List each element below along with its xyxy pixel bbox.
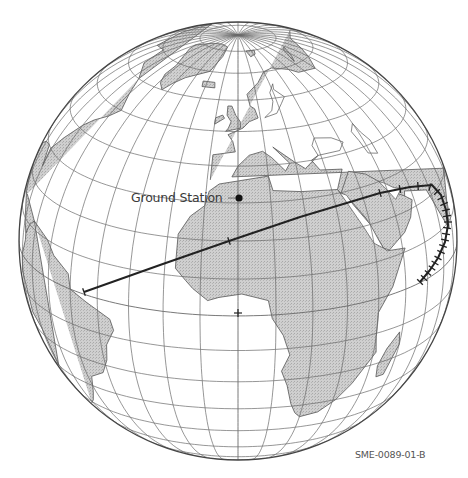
track-tick [443, 227, 451, 228]
landmass-s_america [22, 221, 113, 403]
meridian-line [238, 35, 432, 139]
figure-id-label: SME-0089-01-B [355, 449, 425, 460]
sea-black_sea [312, 138, 343, 156]
landmass-iceland [202, 81, 215, 88]
track-tick [442, 233, 450, 234]
ground-station-label: Ground Station [131, 190, 223, 205]
track-tick [418, 182, 419, 190]
sea-baltic [265, 84, 285, 118]
globe-map [0, 0, 468, 478]
ground-station-marker [235, 194, 242, 201]
